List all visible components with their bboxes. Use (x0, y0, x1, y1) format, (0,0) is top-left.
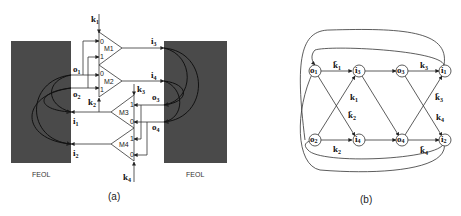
mux-m3-label: M3 (119, 109, 129, 116)
m3-in0: 0 (130, 118, 134, 125)
node-i2: i2 (439, 134, 451, 146)
pin-i4: i4 (151, 70, 157, 81)
node-o2: o2 (309, 134, 321, 146)
pin-o4: o4 (152, 122, 160, 133)
key-k1: k1 (91, 14, 99, 25)
edge-label-k1bar: k̄1 (333, 60, 341, 71)
m3-in1: 1 (130, 101, 134, 108)
pin-i2: i2 (73, 148, 79, 159)
node-o4: o4 (396, 134, 408, 146)
edge-label-k3: k3 (420, 60, 428, 71)
edge-label-k1: k1 (350, 92, 358, 103)
node-o1: o1 (309, 65, 321, 77)
node-i4: i4 (353, 134, 365, 146)
m4-in0: 0 (130, 151, 134, 158)
pin-i1: i1 (73, 116, 79, 127)
key-k2: k2 (88, 97, 96, 108)
pin-o3: o3 (152, 92, 160, 103)
figure-canvas: FEOL FEOL M1 M2 M3 M4 0 1 0 1 1 0 1 0 k1… (0, 0, 461, 216)
edge-label-k4bar: k̄4 (420, 145, 428, 156)
pin-o1: o1 (73, 64, 81, 75)
edge-label-k4: k4 (436, 112, 444, 123)
edge-label-k2: k2 (333, 144, 341, 155)
mux-m1-label: M1 (104, 45, 114, 52)
feol-label-left: FEOL (32, 171, 50, 178)
node-o3: o3 (396, 65, 408, 77)
mux-m2-label: M2 (104, 78, 114, 85)
m2-in1: 1 (100, 86, 104, 93)
m1-in0: 0 (100, 38, 104, 45)
m2-in0: 0 (100, 70, 104, 77)
caption-b: (b) (360, 194, 372, 205)
pin-o2: o2 (73, 89, 81, 100)
key-k3: k3 (137, 84, 145, 95)
mux-m4-label: M4 (119, 141, 129, 148)
edge-label-k2bar: k̄2 (348, 110, 356, 121)
edge-label-k3bar: k̄3 (435, 92, 443, 103)
figure-a: FEOL FEOL M1 M2 M3 M4 0 1 0 1 1 0 1 0 k1… (11, 14, 227, 202)
feol-block-left (11, 41, 71, 163)
caption-a: (a) (108, 191, 120, 202)
m1-in1: 1 (100, 53, 104, 60)
m4-in1: 1 (130, 135, 134, 142)
figure-b: o1 i3 o3 i1 o2 i4 o4 i2 k̄1 k1 k̄2 k2 k3… (300, 29, 451, 205)
feol-label-right: FEOL (186, 171, 204, 178)
node-i1: i1 (439, 65, 451, 77)
node-i3: i3 (353, 65, 365, 77)
key-k4: k4 (123, 172, 131, 183)
pin-i3: i3 (151, 36, 157, 47)
